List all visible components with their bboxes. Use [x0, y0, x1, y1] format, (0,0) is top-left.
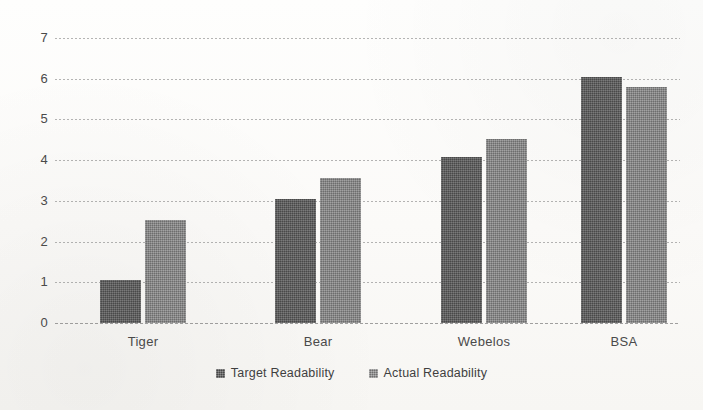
x-label-bsa: BSA: [564, 334, 684, 349]
chart-legend: Target Readability Actual Readability: [0, 366, 703, 380]
legend-label-target: Target Readability: [231, 366, 335, 380]
bar-tiger-target[interactable]: [100, 280, 141, 323]
x-label-bear: Bear: [258, 334, 378, 349]
x-label-webelos: Webelos: [424, 334, 544, 349]
legend-swatch-actual-icon: [369, 369, 378, 378]
x-label-tiger: Tiger: [83, 334, 203, 349]
bar-webelos-actual[interactable]: [486, 139, 527, 323]
legend-swatch-target-icon: [216, 369, 225, 378]
bar-chart: 01234567 TigerBearWebelosBSA Target Read…: [0, 0, 703, 410]
bar-webelos-target[interactable]: [441, 157, 482, 323]
bar-tiger-actual[interactable]: [145, 220, 186, 323]
legend-item-actual[interactable]: Actual Readability: [369, 366, 488, 380]
bar-bear-target[interactable]: [275, 199, 316, 323]
legend-label-actual: Actual Readability: [384, 366, 488, 380]
legend-item-target[interactable]: Target Readability: [216, 366, 335, 380]
bar-bsa-target[interactable]: [581, 77, 622, 323]
bar-bear-actual[interactable]: [320, 178, 361, 323]
bar-bsa-actual[interactable]: [626, 87, 667, 323]
